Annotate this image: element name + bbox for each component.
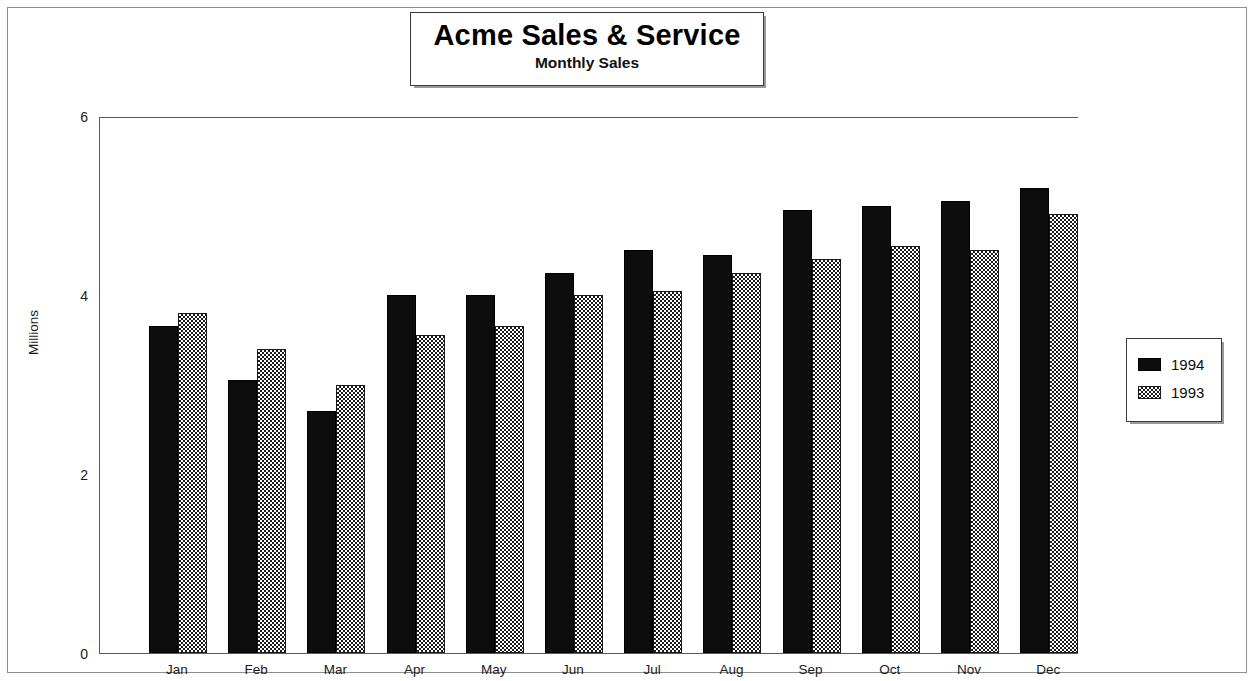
title-box: Acme Sales & Service Monthly Sales [410,12,764,86]
y-tick-label: 2 [58,468,88,482]
bar-jul-1993 [653,291,682,653]
bar-jan-1993 [178,313,207,653]
x-tick-label-apr: Apr [375,662,455,677]
chart-page: Acme Sales & Service Monthly Sales Milli… [0,0,1255,681]
x-tick-label-may: May [454,662,534,677]
bar-dec-1994 [1020,188,1049,653]
bar-feb-1994 [228,380,257,653]
bar-jan-1994 [149,326,178,653]
bar-oct-1993 [891,246,920,653]
bar-nov-1993 [970,250,999,653]
y-tick-label: 6 [58,110,88,124]
bar-sep-1993 [812,259,841,653]
x-tick-label-oct: Oct [850,662,930,677]
y-axis-title: Millions [26,310,41,355]
x-tick-label-dec: Dec [1008,662,1088,677]
bar-jul-1994 [624,250,653,653]
bars-container [100,118,1078,653]
x-tick-label-feb: Feb [216,662,296,677]
y-tick-label: 0 [58,647,88,661]
bar-mar-1994 [307,411,336,653]
x-tick-label-jan: Jan [137,662,217,677]
bar-nov-1994 [941,201,970,653]
x-tick-label-aug: Aug [691,662,771,677]
bar-aug-1994 [703,255,732,653]
bar-oct-1994 [862,206,891,654]
plot-area [99,117,1078,654]
bar-mar-1993 [336,385,365,654]
x-tick-label-nov: Nov [929,662,1009,677]
bar-dec-1993 [1049,214,1078,653]
bar-may-1993 [495,326,524,653]
legend-label-1994: 1994 [1171,357,1204,372]
legend-label-1993: 1993 [1171,385,1204,400]
legend-item: 1993 [1138,378,1221,406]
page-subtitle: Monthly Sales [411,53,763,73]
bar-feb-1993 [257,349,286,653]
chart-legend: 1994 1993 [1126,338,1222,422]
x-tick-label-sep: Sep [771,662,851,677]
x-tick-label-jul: Jul [612,662,692,677]
bar-apr-1994 [387,295,416,653]
bar-sep-1994 [783,210,812,653]
bar-may-1994 [466,295,495,653]
bar-apr-1993 [416,335,445,653]
legend-item: 1994 [1138,350,1221,378]
legend-swatch-1994-icon [1138,358,1161,371]
x-tick-label-mar: Mar [295,662,375,677]
bar-jun-1994 [545,273,574,653]
bar-jun-1993 [574,295,603,653]
x-tick-label-jun: Jun [533,662,613,677]
page-title: Acme Sales & Service [411,18,763,52]
y-tick-label: 4 [58,289,88,303]
bar-aug-1993 [732,273,761,653]
legend-swatch-1993-icon [1138,386,1161,399]
